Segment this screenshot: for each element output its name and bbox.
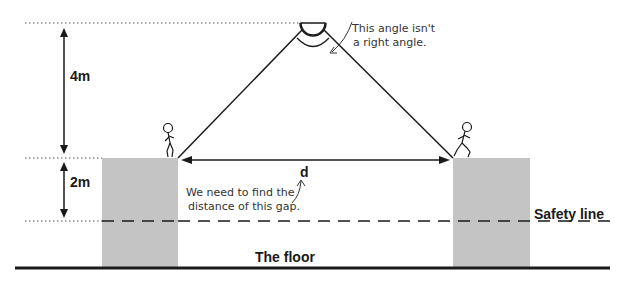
gap-note-line1: We need to find the (186, 186, 295, 199)
height-arrow-2m (60, 162, 68, 218)
angle-arc (297, 38, 329, 47)
right-platform (453, 158, 530, 268)
gap-label-d: d (300, 164, 309, 180)
angle-note-line2: a right angle. (353, 36, 427, 49)
gap-arrow-d (181, 156, 450, 164)
gap-note-line2: distance of this gap. (188, 200, 300, 213)
stick-figure-right (454, 123, 472, 158)
diagram-canvas: 4m 2m Safety line The floor d (0, 0, 631, 281)
height-arrow-4m (60, 28, 68, 154)
left-rope (178, 30, 302, 158)
stick-figure-left (164, 124, 175, 158)
angle-note-line1: This angle isn't (351, 22, 436, 35)
right-rope (324, 30, 453, 158)
left-platform (102, 158, 178, 268)
anchor-point (300, 23, 326, 36)
height-label-4m: 4m (70, 68, 90, 84)
height-label-2m: 2m (70, 174, 90, 190)
floor-label: The floor (255, 249, 315, 265)
safety-line-label: Safety line (534, 206, 604, 222)
